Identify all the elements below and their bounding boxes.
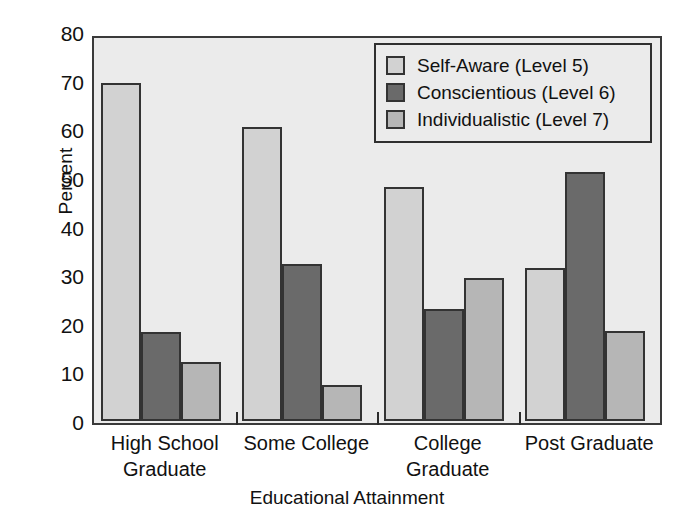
y-tick-label: 10	[30, 363, 84, 385]
x-axis-category-label-line: Post Graduate	[479, 430, 694, 456]
y-tick-label: 60	[30, 120, 84, 142]
x-axis-title: Educational Attainment	[0, 487, 694, 509]
legend-label: Individualistic (Level 7)	[417, 109, 609, 131]
bar	[384, 187, 424, 421]
bar-chart: Percent 01020304050607080 High SchoolGra…	[0, 0, 694, 526]
y-tick-label: 20	[30, 315, 84, 337]
x-axis-category-label-line: Graduate	[338, 456, 558, 482]
x-tick-mark	[519, 412, 521, 425]
bar	[605, 331, 645, 421]
bar	[181, 362, 221, 421]
legend-swatch-icon	[386, 56, 405, 75]
bar	[565, 172, 605, 421]
bar	[424, 309, 464, 421]
legend: Self-Aware (Level 5) Conscientious (Leve…	[374, 43, 652, 143]
x-tick-mark	[236, 412, 238, 425]
bar	[464, 278, 504, 421]
bar	[101, 83, 141, 421]
legend-item: Self-Aware (Level 5)	[386, 52, 640, 79]
x-axis-category-label: Post Graduate	[479, 430, 694, 456]
bar	[282, 264, 322, 421]
x-axis-category-label-line: Graduate	[55, 456, 275, 482]
legend-swatch-icon	[386, 83, 405, 102]
bar	[242, 127, 282, 421]
legend-label: Self-Aware (Level 5)	[417, 55, 589, 77]
y-tick-label: 40	[30, 218, 84, 240]
y-tick-label: 80	[30, 23, 84, 45]
bar	[141, 332, 181, 421]
bar	[322, 385, 362, 421]
legend-swatch-icon	[386, 110, 405, 129]
legend-item: Conscientious (Level 6)	[386, 79, 640, 106]
y-tick-label: 50	[30, 169, 84, 191]
legend-item: Individualistic (Level 7)	[386, 106, 640, 133]
legend-label: Conscientious (Level 6)	[417, 82, 616, 104]
y-tick-label: 30	[30, 266, 84, 288]
bar	[525, 268, 565, 421]
y-tick-label: 70	[30, 72, 84, 94]
x-tick-mark	[377, 412, 379, 425]
